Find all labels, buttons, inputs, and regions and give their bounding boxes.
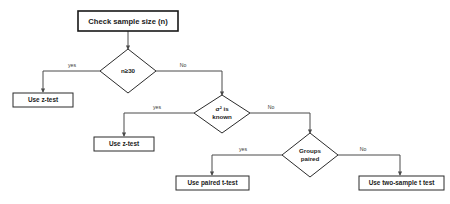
- decision-n-ge-30[interactable]: n≥30: [100, 49, 156, 93]
- decision-groups-paired[interactable]: Groups paired: [282, 133, 338, 177]
- flowchart-canvas: yes No yes No yes No Check sample size (…: [0, 0, 450, 204]
- decision-groups-paired-label-line2: paired: [301, 155, 320, 162]
- connector-d1-yes-to-t1: [43, 71, 100, 92]
- terminal-use-z-test-1[interactable]: Use z-test: [13, 93, 73, 107]
- edge-label-d2-yes: yes: [153, 104, 161, 110]
- terminal-use-two-sample-t-test[interactable]: Use two-sample t test: [359, 176, 444, 190]
- decision-variance-known[interactable]: σ² is known: [194, 95, 250, 133]
- edge-label-d2-no: No: [268, 104, 275, 110]
- node-check-sample-size-label: Check sample size (n): [88, 17, 168, 26]
- connector-d2-no-to-d3: [250, 113, 310, 133]
- decision-variance-known-label-line2: known: [212, 113, 232, 120]
- terminal-use-z-test-2[interactable]: Use z-test: [94, 137, 154, 151]
- edge-label-d1-yes: yes: [68, 62, 76, 68]
- connector-d3-no-to-t4: [338, 155, 400, 175]
- flowchart-svg: yes No yes No yes No Check sample size (…: [0, 0, 450, 204]
- terminal-use-z-test-1-label: Use z-test: [28, 96, 59, 103]
- terminal-use-paired-t-test-label: Use paired t-test: [187, 179, 238, 187]
- terminal-use-two-sample-t-test-label: Use two-sample t test: [369, 179, 436, 187]
- connector-d2-yes-to-t2: [124, 113, 194, 136]
- decision-variance-known-label-line1: σ² is: [215, 105, 229, 112]
- terminal-use-paired-t-test[interactable]: Use paired t-test: [176, 176, 249, 190]
- terminal-use-z-test-2-label: Use z-test: [109, 140, 140, 147]
- decision-n-ge-30-label: n≥30: [121, 67, 136, 74]
- node-check-sample-size[interactable]: Check sample size (n): [78, 11, 178, 31]
- connector-d1-no-to-d2: [156, 71, 222, 95]
- edge-label-d3-no: No: [360, 146, 367, 152]
- decision-groups-paired-label-line1: Groups: [299, 147, 322, 154]
- edge-label-d1-no: No: [180, 62, 187, 68]
- edge-label-d3-yes: yes: [239, 146, 247, 152]
- connector-d3-yes-to-t3: [212, 155, 282, 175]
